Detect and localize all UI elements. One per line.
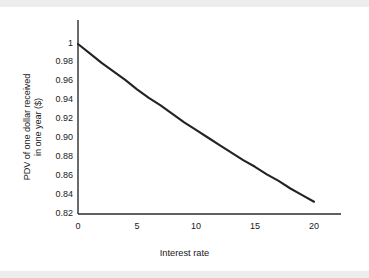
x-tick-label: 5 <box>117 221 157 231</box>
y-tick-label: 0.92 <box>55 113 73 123</box>
y-tick-label: 0.90 <box>55 132 73 142</box>
x-tick-label: 15 <box>235 221 275 231</box>
data-line-pdv <box>78 44 314 202</box>
y-tick-label: 0.82 <box>55 208 73 218</box>
y-tick-label: 0.96 <box>55 75 73 85</box>
y-tick-label: 0.86 <box>55 170 73 180</box>
y-tick-label: 0.88 <box>55 151 73 161</box>
y-tick-label: 1 <box>68 38 73 48</box>
y-axis-label-line1: PDV of one dollar received <box>22 74 33 181</box>
x-tick-label: 0 <box>58 221 98 231</box>
y-tick-label: 0.84 <box>55 189 73 199</box>
x-axis-label: Interest rate <box>0 248 369 258</box>
y-axis-label: PDV of one dollar received in one year (… <box>18 47 48 207</box>
x-tick-label: 10 <box>176 221 216 231</box>
y-axis-label-line2: in one year ($) <box>33 98 44 156</box>
figure-canvas: PDV of one dollar received in one year (… <box>0 0 369 278</box>
y-tick-label: 0.98 <box>55 56 73 66</box>
y-tick-label: 0.94 <box>55 94 73 104</box>
x-tick-label: 20 <box>294 221 334 231</box>
